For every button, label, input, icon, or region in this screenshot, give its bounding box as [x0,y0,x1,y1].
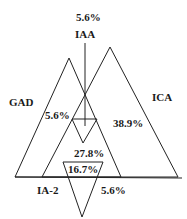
ia2-region-value: 5.6% [101,185,126,196]
gad-region-value: 5.6% [45,110,70,121]
ica-label: ICA [152,92,172,103]
iaa-label: IAA [75,29,95,40]
center-region-value: 27.8% [74,148,104,159]
ica-region-value: 38.9% [113,118,143,129]
inner-region-value: 16.7% [68,164,98,175]
iaa-only-value: 5.6% [76,12,101,23]
gad-label: GAD [9,97,33,108]
ia2-label: IA-2 [37,185,58,196]
